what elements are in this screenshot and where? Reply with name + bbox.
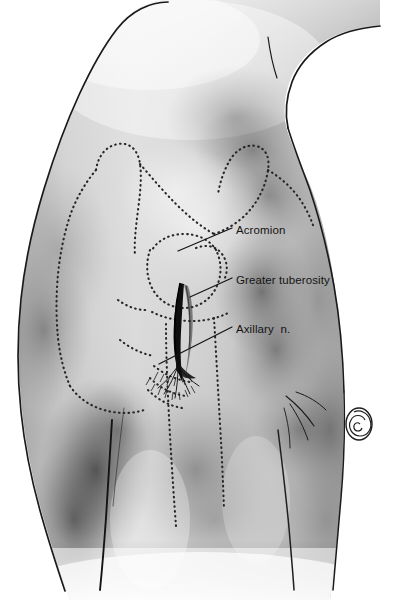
body-shading — [0, 0, 399, 600]
label-greater-tuberosity: Greater tuberosity — [236, 274, 330, 286]
illustration-canvas: Acromion Greater tuberosity Axillary n. — [0, 0, 399, 600]
shoulder-anatomy-figure — [0, 0, 399, 600]
label-axillary-nerve: Axillary n. — [236, 323, 290, 335]
label-acromion: Acromion — [236, 224, 285, 236]
nipple-areola — [346, 408, 372, 440]
